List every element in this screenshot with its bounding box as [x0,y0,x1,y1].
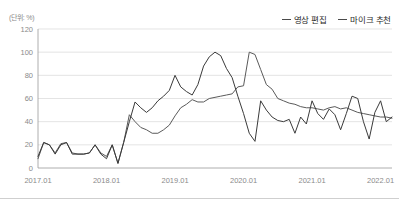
x-tick-label: 2018.01 [93,176,120,185]
x-tick-label: 2019.01 [161,176,188,185]
bottom-divider [0,198,399,199]
y-tick-label: 0 [29,164,33,173]
y-axis-tick-labels: 020406080100120 [20,25,33,173]
y-tick-label: 120 [20,25,33,34]
y-tick-label: 80 [25,71,33,80]
line-chart-container: (단위: %) 영상 편집 마이크 추천 020406080100120 201… [0,0,399,199]
y-tick-label: 40 [25,117,33,126]
x-axis-tick-labels: 2017.012018.012019.012020.012021.012022.… [24,176,394,185]
y-tick-label: 100 [20,48,33,57]
y-tick-label: 60 [25,94,33,103]
x-tick-label: 2020.01 [230,176,257,185]
series-line-0 [38,52,392,163]
chart-plot-area: 020406080100120 2017.012018.012019.01202… [0,0,399,199]
data-series [38,52,392,163]
x-tick-label: 2022.01 [367,176,394,185]
x-tick-label: 2017.01 [24,176,51,185]
y-tick-label: 20 [25,140,33,149]
x-tick-label: 2021.01 [299,176,326,185]
gridlines [38,29,392,168]
